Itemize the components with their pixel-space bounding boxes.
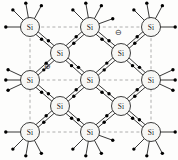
- valence-electron: [145, 154, 148, 157]
- dangling-bond-line: [94, 7, 101, 19]
- valence-electron: [161, 4, 164, 7]
- silicon-atom: Si: [21, 71, 40, 90]
- dangling-bond-line: [147, 4, 149, 18]
- dangling-bond-line: [26, 4, 28, 18]
- valence-electron: [6, 68, 9, 71]
- atom-symbol-label: Si: [148, 23, 154, 32]
- valence-electron: [40, 38, 43, 41]
- dangling-bond-line: [159, 70, 172, 76]
- valence-electron: [70, 117, 73, 120]
- valence-electron: [84, 1, 87, 4]
- dangling-bond-line: [155, 7, 162, 19]
- dangling-bond-line: [74, 11, 84, 21]
- atoms-layer: SiSiSiSiSiSiSiSiSiSiSiSiSi: [21, 18, 161, 142]
- valence-electron: [100, 91, 103, 94]
- dangling-bond-line: [34, 140, 41, 152]
- valence-electron: [6, 89, 9, 92]
- valence-electron: [4, 25, 7, 28]
- dangling-bond-line: [135, 138, 145, 148]
- valence-electron: [40, 152, 43, 155]
- valence-electron: [133, 95, 136, 98]
- valence-electron: [77, 66, 80, 69]
- valence-electron: [105, 114, 108, 117]
- dangling-bond-line: [26, 141, 28, 155]
- dangling-bond-line: [94, 140, 101, 152]
- valence-electron: [131, 64, 134, 67]
- valence-electron: [107, 39, 110, 42]
- valence-electron: [70, 64, 73, 67]
- silicon-atom: Si: [51, 44, 70, 63]
- atom-symbol-label: Si: [118, 49, 124, 58]
- atom-symbol-label: Si: [27, 23, 33, 32]
- valence-electron: [71, 147, 74, 150]
- valence-electron: [42, 121, 45, 124]
- silicon-atom: Si: [142, 18, 161, 37]
- silicon-atom: Si: [81, 123, 100, 142]
- valence-electron: [107, 92, 110, 95]
- dangling-bond-line: [159, 84, 172, 90]
- atom-symbol-label: Si: [57, 49, 63, 58]
- atom-symbol-label: Si: [87, 23, 93, 32]
- dangling-bond-line: [98, 135, 111, 140]
- valence-electron: [74, 35, 77, 38]
- atom-symbol-label: Si: [87, 128, 93, 137]
- dangling-bond-line: [86, 141, 88, 155]
- valence-electron: [135, 35, 138, 38]
- valence-electron: [24, 1, 27, 4]
- valence-electron: [72, 42, 75, 45]
- valence-electron: [132, 8, 135, 11]
- valence-electron: [11, 147, 14, 150]
- atom-symbol-label: Si: [148, 128, 154, 137]
- silicon-atom: Si: [142, 71, 161, 90]
- valence-electron: [145, 1, 148, 4]
- valence-electron: [72, 95, 75, 98]
- valence-electron: [77, 118, 80, 121]
- valence-electron: [174, 130, 177, 133]
- valence-electron: [135, 88, 138, 91]
- valence-electron: [174, 78, 177, 81]
- valence-electron: [4, 130, 7, 133]
- valence-electron: [138, 118, 141, 121]
- valence-electron: [100, 38, 103, 41]
- hole-charge: ⊕: [44, 62, 51, 71]
- valence-electron: [138, 66, 141, 69]
- silicon-atom: Si: [81, 18, 100, 37]
- valence-electron: [111, 17, 114, 20]
- silicon-atom: Si: [112, 44, 131, 63]
- dangling-bond-line: [14, 11, 24, 21]
- dangling-bond-line: [98, 19, 111, 24]
- valence-electron: [44, 114, 47, 117]
- silicon-atom: Si: [81, 71, 100, 90]
- free-electron-charge: ⊖: [115, 28, 122, 37]
- valence-electron: [4, 78, 7, 81]
- valence-electron: [105, 61, 108, 64]
- dangling-bond-line: [34, 7, 41, 19]
- silicon-atom: Si: [112, 97, 131, 116]
- dangling-bond-line: [135, 11, 145, 21]
- atom-symbol-label: Si: [118, 102, 124, 111]
- valence-electron: [74, 88, 77, 91]
- atom-symbol-label: Si: [27, 128, 33, 137]
- silicon-atom: Si: [142, 123, 161, 142]
- valence-electron: [171, 89, 174, 92]
- valence-electron: [100, 4, 103, 7]
- valence-electron: [161, 152, 164, 155]
- silicon-lattice-figure: SiSiSiSiSiSiSiSiSiSiSiSiSi ⊖⊕: [0, 0, 178, 160]
- dangling-bond-line: [9, 70, 22, 76]
- valence-electron: [100, 152, 103, 155]
- dangling-bond-line: [14, 138, 24, 148]
- valence-electron: [133, 42, 136, 45]
- dangling-bond-line: [74, 138, 84, 148]
- valence-electron: [111, 139, 114, 142]
- valence-electron: [11, 8, 14, 11]
- valence-electron: [171, 68, 174, 71]
- atom-symbol-label: Si: [87, 76, 93, 85]
- dangling-bond-line: [147, 141, 149, 155]
- valence-electron: [102, 121, 105, 124]
- valence-electron: [131, 117, 134, 120]
- valence-electron: [47, 92, 50, 95]
- valence-electron: [102, 68, 105, 71]
- dangling-bond-line: [86, 4, 88, 18]
- silicon-atom: Si: [21, 123, 40, 142]
- valence-electron: [40, 91, 43, 94]
